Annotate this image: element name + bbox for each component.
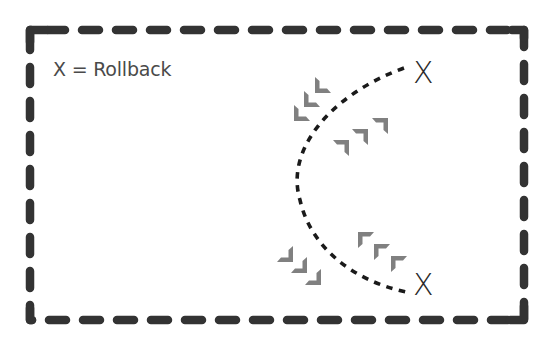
chevron-arrow-icon (277, 246, 293, 262)
rollback-path (297, 68, 406, 292)
upper-right-chevrons (333, 118, 388, 156)
chevron-arrow-icon (391, 256, 407, 272)
diagram-canvas (0, 0, 554, 343)
rollback-marker-top: X (413, 58, 434, 88)
frame-corner-top-right (512, 30, 524, 38)
chevron-arrow-icon (294, 105, 310, 121)
frame-corner-top-left (30, 30, 47, 42)
frame-corner-bottom-right (510, 306, 524, 320)
chevron-arrow-icon (333, 140, 349, 156)
chevron-arrow-icon (305, 269, 321, 285)
chevron-arrow-icon (374, 244, 390, 260)
chevron-arrow-icon (372, 118, 388, 134)
chevron-arrow-icon (304, 91, 320, 107)
frame-corner-bottom-left (30, 308, 32, 320)
chevron-arrow-icon (358, 232, 374, 248)
upper-left-chevrons (294, 77, 331, 121)
lower-left-chevrons (277, 246, 321, 285)
rollback-marker-bottom: X (413, 270, 434, 300)
chevron-arrow-icon (352, 129, 368, 145)
chevron-arrow-icon (291, 257, 307, 273)
lower-right-chevrons (358, 232, 407, 272)
chevron-arrow-icon (315, 77, 331, 93)
legend-label: X = Rollback (53, 58, 171, 80)
